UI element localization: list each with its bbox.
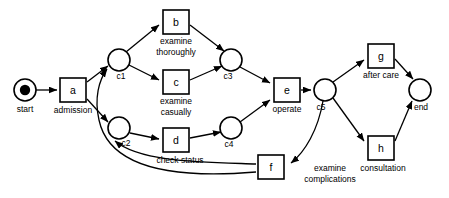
transition-label-f-line2: complications: [304, 174, 356, 184]
transition-label-f-line1: examine: [314, 163, 346, 173]
place-c3[interactable]: [220, 49, 242, 71]
transition-letter-g: g: [378, 50, 384, 62]
place-c1[interactable]: [108, 49, 130, 71]
arc-layer: [36, 25, 413, 174]
token-start: [20, 85, 30, 95]
transition-label-a: admission: [54, 105, 93, 115]
transition-label-c-line2: casually: [161, 107, 192, 117]
place-label-c3: c3: [224, 71, 233, 81]
arc-c1-to-c: [129, 65, 159, 80]
arc-c3-to-e: [240, 67, 270, 83]
arc-c5-to-g: [333, 60, 364, 82]
arc-a-to-c1: [87, 66, 108, 82]
place-label-c5: c5: [317, 102, 326, 112]
transition-label-e: operate: [273, 104, 302, 114]
transition-letter-e: e: [284, 84, 290, 96]
transition-label-h: consultation: [360, 163, 406, 173]
place-label-end: end: [414, 102, 428, 112]
arc-c2-to-d: [130, 133, 159, 139]
transition-letter-a: a: [70, 84, 76, 96]
transition-letter-c: c: [173, 76, 178, 88]
place-label-c4: c4: [225, 139, 234, 149]
arc-c1-to-b: [126, 25, 159, 52]
place-c2[interactable]: [108, 117, 130, 139]
petri-net-diagram: start c1 c2 c3 c4 c5 end a admi: [0, 0, 449, 198]
transition-layer: a admission b examine thoroughly c exami…: [54, 10, 406, 184]
transition-letter-h: h: [378, 142, 384, 154]
transition-label-b-line1: examine: [160, 36, 192, 46]
place-end[interactable]: [409, 79, 431, 101]
place-label-start: start: [17, 104, 34, 114]
place-label-c1: c1: [117, 71, 126, 81]
arc-c4-to-e: [240, 100, 270, 122]
arc-d-to-c4: [190, 132, 221, 138]
arc-c-to-c3: [190, 66, 222, 80]
arc-c5-to-h: [333, 98, 364, 141]
place-label-c2: c2: [122, 138, 131, 148]
transition-label-b-line2: thoroughly: [156, 47, 196, 57]
transition-letter-b: b: [173, 16, 179, 28]
place-c5[interactable]: [314, 79, 336, 101]
petri-net-canvas: start c1 c2 c3 c4 c5 end a admi: [0, 0, 449, 198]
transition-letter-f: f: [270, 161, 273, 173]
transition-label-c-line1: examine: [160, 96, 192, 106]
transition-label-g: after care: [363, 70, 399, 80]
arc-h-to-end: [395, 101, 412, 141]
place-c4[interactable]: [220, 117, 242, 139]
transition-label-d: check status: [156, 155, 203, 165]
transition-letter-d: d: [173, 134, 179, 146]
